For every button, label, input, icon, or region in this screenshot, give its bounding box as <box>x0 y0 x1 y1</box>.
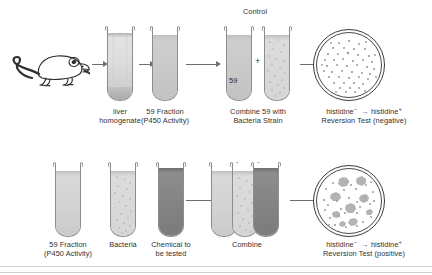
histidine-from-label: histidine <box>326 107 354 116</box>
tube-texture <box>108 33 132 100</box>
tube-contents <box>227 35 251 100</box>
label-line-1: Combine <box>232 240 262 249</box>
arrow-s9-to-combine <box>186 61 222 68</box>
label-combine: Combine <box>214 240 280 249</box>
tube-contents <box>56 171 80 236</box>
petri-dish-negative <box>313 29 385 101</box>
plus-sign: + <box>255 56 260 66</box>
reversion-test-result: Reversion Test (negative) <box>302 116 426 125</box>
histidine-plus-superscript: + <box>398 239 401 245</box>
histidine-to-label: histidine <box>371 107 399 116</box>
label-chemical: Chemical to be tested <box>140 240 202 258</box>
colonies-revertant <box>313 165 385 237</box>
bacteria-speckles <box>111 173 135 235</box>
tube-meniscus <box>254 168 278 173</box>
tube-meniscus <box>153 35 177 40</box>
tube-meniscus <box>56 171 80 176</box>
petri-dish-positive <box>313 165 385 237</box>
tube-contents <box>153 35 177 100</box>
tube-liver-homogenate <box>107 27 133 101</box>
tube-s9-fraction-test <box>55 163 81 237</box>
label-line-1: liver <box>113 107 127 116</box>
colonies-small <box>313 29 385 101</box>
histidine-minus-superscript: − <box>354 106 357 112</box>
label-line-2: (P450 Activity) <box>36 249 100 258</box>
label-line-1: Chemical to <box>151 240 191 249</box>
tube-meniscus <box>159 168 183 173</box>
mouse-illustration <box>12 42 90 88</box>
tube-number-label: 59 <box>229 76 237 85</box>
label-s9-fraction-test: 59 Fraction (P450 Activity) <box>36 240 100 258</box>
tube-bacteria <box>110 163 136 237</box>
label-line-1: 59 Fraction <box>146 107 184 116</box>
tube-s9-fraction <box>152 27 178 101</box>
histidine-minus-superscript: − <box>354 239 357 245</box>
tube-combine-bacteria <box>264 27 290 101</box>
label-line-1: 59 Fraction <box>49 240 87 249</box>
label-line-1: Bacteria <box>109 240 137 249</box>
tube-contents <box>254 168 278 236</box>
label-line-2: (P450 Activity) <box>133 116 197 125</box>
ames-test-diagram: Control <box>0 0 432 275</box>
tube-combine-s9: 59 <box>226 27 252 101</box>
reaction-arrow-icon: → <box>359 107 371 116</box>
tube-contents <box>159 168 183 236</box>
reaction-arrow-icon: → <box>359 240 371 249</box>
result-negative: histidine− → histidine+ Reversion Test (… <box>302 107 426 125</box>
bacteria-speckles <box>265 37 289 99</box>
separator-rule-bottom <box>0 272 432 273</box>
label-line-2: Bacteria Strain <box>214 116 302 125</box>
histidine-from-label: histidine <box>326 240 354 249</box>
histidine-to-label: histidine <box>371 240 399 249</box>
separator-rule-top <box>0 266 432 267</box>
reversion-test-result: Reversion Test (positive) <box>302 249 426 258</box>
tube-combine-chemical-test <box>253 163 279 237</box>
label-s9-fraction: 59 Fraction (P450 Activity) <box>133 107 197 125</box>
result-positive: histidine− → histidine+ Reversion Test (… <box>302 240 426 258</box>
label-combine-s9-bacteria: Combine 59 with Bacteria Strain <box>214 107 302 125</box>
control-label: Control <box>222 7 288 16</box>
label-line-2: be tested <box>140 249 202 258</box>
tube-chemical <box>158 163 184 237</box>
histidine-plus-superscript: + <box>398 106 401 112</box>
label-line-1: Combine 59 with <box>230 107 286 116</box>
tube-meniscus <box>227 35 251 40</box>
